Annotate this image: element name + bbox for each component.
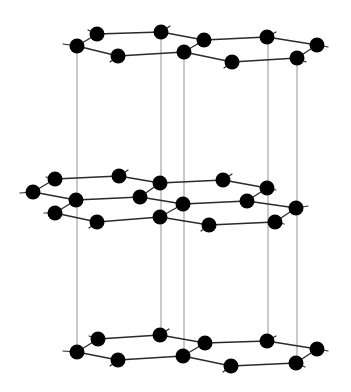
- carbon-atom: [176, 197, 191, 212]
- carbon-atom: [289, 201, 304, 216]
- carbon-atom: [90, 27, 105, 42]
- carbon-atom: [153, 176, 168, 191]
- carbon-atom: [91, 332, 106, 347]
- carbon-atom: [310, 38, 325, 53]
- carbon-atom: [198, 336, 213, 351]
- carbon-atom: [290, 51, 305, 66]
- carbon-atom: [112, 169, 127, 184]
- carbon-atom: [133, 190, 148, 205]
- carbon-atom: [154, 25, 169, 40]
- carbon-atom: [224, 359, 239, 374]
- carbon-atom: [153, 328, 168, 343]
- carbon-atom: [202, 218, 217, 233]
- carbon-atom: [225, 55, 240, 70]
- diagram-canvas: [0, 0, 351, 392]
- carbon-atom: [48, 206, 63, 221]
- graphite-structure-diagram: [0, 0, 351, 392]
- carbon-atom: [268, 215, 283, 230]
- carbon-atom: [260, 181, 275, 196]
- carbon-atom: [240, 194, 255, 209]
- carbon-atom: [69, 193, 84, 208]
- carbon-atom: [70, 345, 85, 360]
- carbon-atom: [111, 353, 126, 368]
- carbon-atom: [260, 334, 275, 349]
- carbon-atom: [176, 349, 191, 364]
- carbon-atom: [48, 172, 63, 187]
- carbon-atom: [260, 30, 275, 45]
- carbon-atom: [197, 33, 212, 48]
- carbon-atom: [26, 185, 41, 200]
- carbon-atom: [289, 356, 304, 371]
- carbon-atom: [70, 39, 85, 54]
- carbon-atom: [310, 342, 325, 357]
- carbon-atom: [153, 210, 168, 225]
- carbon-atom: [90, 215, 105, 230]
- carbon-atom: [177, 45, 192, 60]
- carbon-atom: [216, 173, 231, 188]
- carbon-atom: [111, 49, 126, 64]
